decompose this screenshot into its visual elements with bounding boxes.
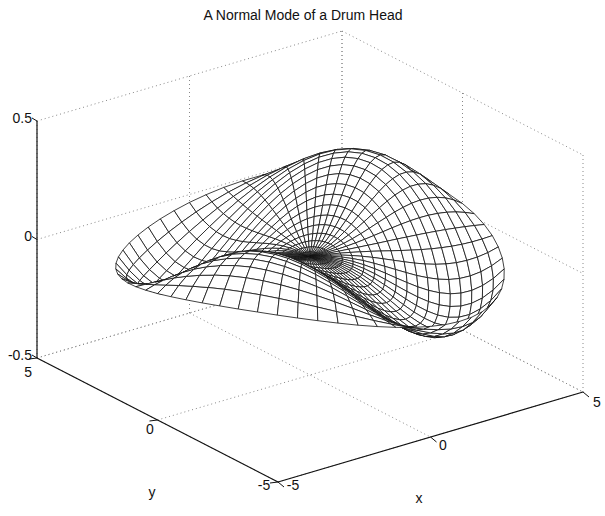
x-axis-label: x bbox=[416, 490, 423, 506]
z-tick bbox=[32, 118, 37, 121]
grid-line bbox=[158, 330, 463, 420]
x-tick bbox=[431, 437, 437, 442]
y-tick-5: 5 bbox=[24, 364, 32, 380]
grid-line bbox=[190, 313, 431, 437]
z-tick bbox=[32, 355, 37, 358]
surface-plot: A Normal Mode of a Drum Head 0.5 0 -0.5 … bbox=[0, 0, 605, 516]
z-tick bbox=[32, 237, 37, 240]
y-tick-neg5: -5 bbox=[258, 477, 271, 493]
mesh-cell bbox=[438, 279, 450, 294]
x-tick bbox=[278, 482, 284, 487]
x-tick-5: 5 bbox=[593, 394, 601, 410]
wireframe-surface bbox=[116, 149, 504, 338]
chart-title: A Normal Mode of a Drum Head bbox=[203, 7, 402, 23]
mesh-cell bbox=[449, 279, 461, 294]
y-tick bbox=[270, 482, 278, 483]
y-tick-0: 0 bbox=[146, 421, 154, 437]
mesh-cell bbox=[450, 293, 461, 306]
x-tick bbox=[583, 392, 589, 397]
z-tick-0.5: 0.5 bbox=[13, 110, 33, 126]
mesh-cell bbox=[238, 292, 260, 312]
mesh-cell bbox=[258, 295, 280, 315]
z-tick-0: 0 bbox=[24, 228, 32, 244]
y-axis-label: y bbox=[149, 484, 156, 500]
x-tick-0: 0 bbox=[439, 437, 447, 453]
x-tick-neg5: -5 bbox=[287, 477, 300, 493]
mesh-cell bbox=[439, 293, 450, 307]
z-tick-neg0.5: -0.5 bbox=[8, 347, 32, 363]
